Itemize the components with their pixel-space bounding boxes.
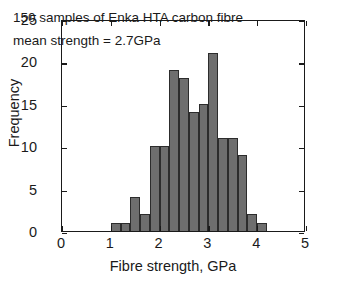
x-axis-tick bbox=[208, 226, 209, 231]
x-axis-tick-label: 3 bbox=[187, 236, 227, 251]
histogram-bar bbox=[218, 138, 228, 231]
y-axis-tick-right bbox=[299, 148, 304, 149]
x-axis-tick-top bbox=[306, 21, 307, 26]
y-axis-tick-label: 0 bbox=[29, 225, 37, 240]
histogram-bar bbox=[238, 155, 248, 231]
histogram-bar bbox=[208, 53, 218, 231]
histogram-bar bbox=[111, 223, 121, 231]
y-axis-tick-label: 20 bbox=[21, 55, 37, 70]
plot-area bbox=[61, 20, 305, 232]
histogram-bar bbox=[140, 214, 150, 231]
y-axis-tick bbox=[62, 106, 67, 107]
x-axis-tick-label: 5 bbox=[285, 236, 325, 251]
x-axis-title: Fibre strength, GPa bbox=[0, 258, 346, 274]
y-axis-title: Frequency bbox=[6, 53, 22, 173]
y-axis-tick-right bbox=[299, 106, 304, 107]
histogram-bar bbox=[189, 112, 199, 231]
y-axis-tick-right bbox=[299, 191, 304, 192]
histogram-bar bbox=[199, 104, 209, 231]
x-axis-tick bbox=[111, 226, 112, 231]
y-axis-tick-label: 15 bbox=[21, 98, 37, 113]
y-axis-tick-right bbox=[299, 63, 304, 64]
x-axis-tick-label: 4 bbox=[236, 236, 276, 251]
x-axis-tick-label: 0 bbox=[41, 236, 81, 251]
histogram-bar bbox=[179, 78, 189, 231]
histogram-bar bbox=[121, 223, 131, 231]
x-axis-tick-label: 1 bbox=[90, 236, 130, 251]
x-axis-tick bbox=[306, 226, 307, 231]
x-axis-tick-label: 2 bbox=[139, 236, 179, 251]
x-axis-tick bbox=[257, 226, 258, 231]
histogram-bar bbox=[169, 70, 179, 231]
y-axis-tick-right bbox=[299, 21, 304, 22]
annotation-sample-count: 150 samples of Enka HTA carbon fibre bbox=[13, 10, 243, 25]
y-axis-tick bbox=[62, 63, 67, 64]
y-axis-tick-label: 5 bbox=[29, 183, 37, 198]
y-axis-tick bbox=[62, 148, 67, 149]
x-axis-tick-top bbox=[257, 21, 258, 26]
bars-layer bbox=[62, 21, 304, 231]
annotation-mean-strength: mean strength = 2.7GPa bbox=[13, 33, 160, 48]
histogram-bar bbox=[150, 146, 160, 231]
x-axis-tick bbox=[62, 226, 63, 231]
histogram-bar bbox=[257, 223, 267, 231]
y-axis-tick bbox=[62, 191, 67, 192]
histogram-bar bbox=[247, 214, 257, 231]
histogram-figure: 0510152025012345 Frequency Fibre strengt… bbox=[0, 0, 346, 288]
histogram-bar bbox=[228, 138, 238, 231]
histogram-bar bbox=[130, 197, 140, 231]
y-axis-tick-label: 10 bbox=[21, 140, 37, 155]
x-axis-tick bbox=[160, 226, 161, 231]
histogram-bar bbox=[160, 146, 170, 231]
